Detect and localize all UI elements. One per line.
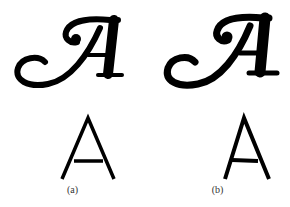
sans-letter-a-rough bbox=[145, 105, 290, 185]
panel-a: (a) bbox=[0, 0, 145, 207]
panel-b: (b) bbox=[145, 0, 290, 207]
script-letter-a-smooth bbox=[0, 0, 145, 100]
caption-b: (b) bbox=[145, 184, 290, 195]
caption-a: (a) bbox=[0, 184, 145, 195]
sans-letter-a-smooth bbox=[0, 105, 145, 185]
script-letter-a-rough bbox=[145, 0, 290, 100]
